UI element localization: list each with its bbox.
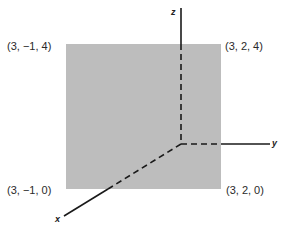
- corner-label-bottom-right: (3, 2, 0): [226, 185, 264, 196]
- y-axis-label: y: [272, 139, 277, 148]
- x-axis-solid: [64, 189, 108, 216]
- corner-label-bottom-left: (3, −1, 0): [7, 185, 51, 196]
- diagram-canvas: [0, 0, 286, 234]
- corner-label-top-left: (3, −1, 4): [7, 41, 51, 52]
- coordinate-diagram: z y x (3, −1, 4) (3, 2, 4) (3, −1, 0) (3…: [0, 0, 286, 234]
- x-axis-label: x: [55, 215, 60, 224]
- z-axis-label: z: [171, 8, 176, 17]
- corner-label-top-right: (3, 2, 4): [225, 41, 263, 52]
